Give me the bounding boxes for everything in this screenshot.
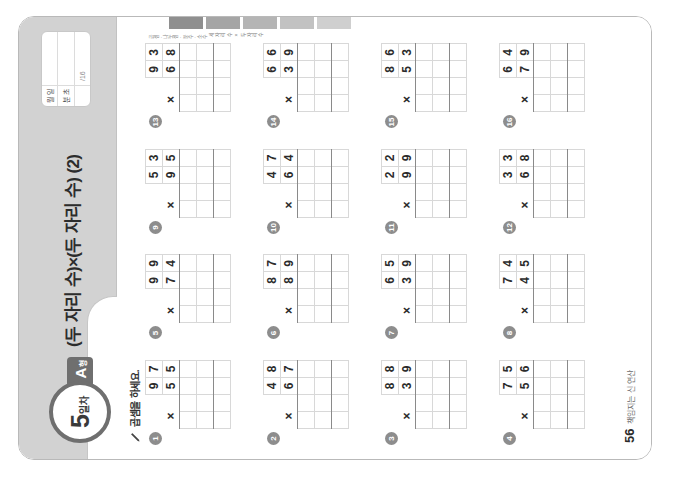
answer-cell[interactable] [450, 306, 467, 323]
answer-cell[interactable] [180, 95, 197, 112]
answer-cell[interactable] [450, 201, 467, 218]
answer-cell[interactable] [197, 361, 214, 378]
answer-cell[interactable] [416, 61, 433, 78]
answer-cell[interactable] [551, 78, 568, 95]
answer-cell[interactable] [298, 289, 315, 306]
answer-cell[interactable] [298, 272, 315, 289]
answer-cell[interactable] [534, 95, 551, 112]
answer-cell[interactable] [534, 61, 551, 78]
answer-cell[interactable] [197, 201, 214, 218]
answer-cell[interactable] [534, 378, 551, 395]
answer-cell[interactable] [416, 412, 433, 429]
answer-cell[interactable] [534, 255, 551, 272]
answer-cell[interactable] [433, 306, 450, 323]
answer-cell[interactable] [180, 44, 197, 61]
answer-cell[interactable] [416, 255, 433, 272]
answer-cell[interactable] [416, 272, 433, 289]
answer-cell[interactable] [298, 150, 315, 167]
answer-cell[interactable] [180, 201, 197, 218]
answer-cell[interactable] [416, 167, 433, 184]
answer-cell[interactable] [197, 150, 214, 167]
answer-cell[interactable] [568, 255, 585, 272]
answer-cell[interactable] [450, 44, 467, 61]
answer-cell[interactable] [433, 412, 450, 429]
answer-cell[interactable] [214, 306, 231, 323]
answer-cell[interactable] [534, 78, 551, 95]
answer-cell[interactable] [450, 167, 467, 184]
answer-cell[interactable] [568, 184, 585, 201]
answer-cell[interactable] [214, 255, 231, 272]
answer-cell[interactable] [568, 306, 585, 323]
answer-cell[interactable] [315, 395, 332, 412]
answer-cell[interactable] [180, 306, 197, 323]
answer-cell[interactable] [433, 150, 450, 167]
answer-cell[interactable] [551, 378, 568, 395]
answer-cell[interactable] [214, 61, 231, 78]
answer-cell[interactable] [315, 378, 332, 395]
answer-cell[interactable] [332, 201, 349, 218]
answer-cell[interactable] [433, 184, 450, 201]
answer-cell[interactable] [450, 78, 467, 95]
answer-cell[interactable] [315, 61, 332, 78]
answer-cell[interactable] [551, 412, 568, 429]
answer-cell[interactable] [332, 44, 349, 61]
answer-cell[interactable] [298, 78, 315, 95]
answer-cell[interactable] [315, 306, 332, 323]
answer-cell[interactable] [214, 289, 231, 306]
answer-cell[interactable] [298, 184, 315, 201]
answer-cell[interactable] [534, 201, 551, 218]
answer-cell[interactable] [433, 255, 450, 272]
answer-cell[interactable] [551, 184, 568, 201]
answer-cell[interactable] [551, 61, 568, 78]
answer-cell[interactable] [214, 184, 231, 201]
answer-cell[interactable] [332, 78, 349, 95]
answer-cell[interactable] [180, 167, 197, 184]
answer-cell[interactable] [197, 78, 214, 95]
answer-cell[interactable] [180, 412, 197, 429]
answer-cell[interactable] [568, 61, 585, 78]
answer-cell[interactable] [534, 361, 551, 378]
answer-cell[interactable] [298, 255, 315, 272]
answer-cell[interactable] [433, 272, 450, 289]
answer-cell[interactable] [214, 272, 231, 289]
answer-cell[interactable] [214, 395, 231, 412]
answer-cell[interactable] [214, 95, 231, 112]
answer-cell[interactable] [551, 395, 568, 412]
answer-cell[interactable] [551, 361, 568, 378]
answer-cell[interactable] [214, 150, 231, 167]
answer-cell[interactable] [197, 44, 214, 61]
answer-cell[interactable] [416, 150, 433, 167]
answer-cell[interactable] [534, 412, 551, 429]
answer-cell[interactable] [315, 78, 332, 95]
answer-cell[interactable] [315, 167, 332, 184]
answer-cell[interactable] [416, 78, 433, 95]
answer-cell[interactable] [433, 395, 450, 412]
answer-cell[interactable] [197, 306, 214, 323]
answer-cell[interactable] [180, 289, 197, 306]
answer-cell[interactable] [214, 201, 231, 218]
answer-cell[interactable] [298, 361, 315, 378]
answer-cell[interactable] [416, 44, 433, 61]
answer-cell[interactable] [450, 61, 467, 78]
answer-cell[interactable] [214, 412, 231, 429]
answer-cell[interactable] [332, 167, 349, 184]
answer-cell[interactable] [332, 395, 349, 412]
answer-cell[interactable] [433, 361, 450, 378]
answer-cell[interactable] [433, 378, 450, 395]
answer-cell[interactable] [534, 167, 551, 184]
answer-cell[interactable] [416, 289, 433, 306]
answer-cell[interactable] [568, 289, 585, 306]
answer-cell[interactable] [551, 150, 568, 167]
answer-cell[interactable] [298, 201, 315, 218]
answer-cell[interactable] [416, 184, 433, 201]
answer-cell[interactable] [551, 272, 568, 289]
answer-cell[interactable] [197, 412, 214, 429]
answer-cell[interactable] [551, 167, 568, 184]
answer-cell[interactable] [433, 95, 450, 112]
answer-cell[interactable] [298, 378, 315, 395]
answer-cell[interactable] [534, 395, 551, 412]
answer-cell[interactable] [416, 361, 433, 378]
answer-cell[interactable] [433, 201, 450, 218]
answer-cell[interactable] [332, 255, 349, 272]
answer-cell[interactable] [332, 272, 349, 289]
